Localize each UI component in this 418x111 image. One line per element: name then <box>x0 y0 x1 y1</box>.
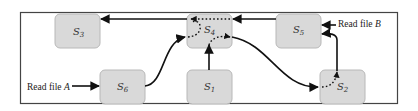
state-S1-subscript: 1 <box>211 86 215 94</box>
edge-S2-to-S5 <box>322 34 337 71</box>
state-S1: S1 <box>187 70 232 104</box>
state-S4-subscript: 4 <box>210 29 215 37</box>
state-S6-subscript: 6 <box>124 86 129 94</box>
edge-S6-to-S4 <box>145 37 185 86</box>
state-S5: S5 <box>276 14 321 48</box>
state-S2-subscript: 2 <box>343 86 349 94</box>
state-S3-subscript: 3 <box>80 31 85 39</box>
state-diagram: S3 S4 S5 S6 S1 S2 Read file A Read file … <box>0 0 418 111</box>
state-S5-subscript: 5 <box>300 29 305 37</box>
input-label-read-file-b: Read file B <box>338 19 381 29</box>
state-S3: S3 <box>55 14 100 48</box>
input-label-read-file-a: Read file A <box>27 82 70 92</box>
state-S6: S6 <box>100 70 145 104</box>
